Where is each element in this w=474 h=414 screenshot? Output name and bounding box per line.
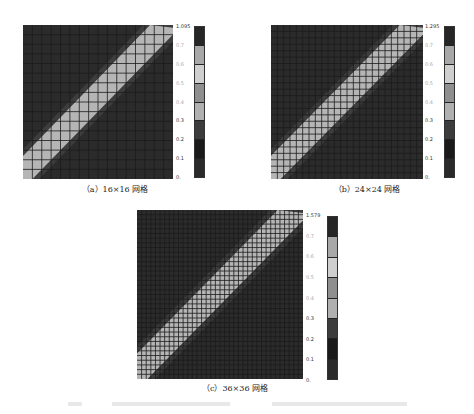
contour-band-b <box>271 25 423 179</box>
colorbar-segment <box>445 159 454 177</box>
colorbar-segment <box>445 140 454 159</box>
colorbar-tick-label: 1.295 <box>425 24 442 29</box>
colorbar-a <box>194 26 205 178</box>
colorbar-segment <box>195 84 204 103</box>
colorbar-segment <box>328 339 337 359</box>
colorbar-tick-label: 0.3 <box>306 316 324 321</box>
colorbar-tick-label: 0.2 <box>176 137 192 142</box>
colorbar-tick-label: 0.5 <box>425 81 442 86</box>
colorbar-segment <box>328 258 337 278</box>
colorbar-segment <box>195 65 204 84</box>
colorbar-ticks-b: 1.2950.70.60.50.40.30.20.10. <box>425 24 442 180</box>
colorbar-tick-label: 0.6 <box>425 62 442 67</box>
colorbar-tick-label: 0. <box>176 175 192 180</box>
colorbar-segment <box>328 278 337 298</box>
colorbar-tick-label: 0.7 <box>306 234 324 239</box>
colorbar-tick-label: 0.2 <box>425 137 442 142</box>
colorbar-segment <box>328 237 337 257</box>
figure-caption <box>60 402 420 408</box>
colorbar-c <box>327 216 338 380</box>
colorbar-segment <box>328 217 337 237</box>
colorbar-tick-label: 0.7 <box>425 43 442 48</box>
colorbar-segment <box>195 27 204 46</box>
colorbar-tick-label: 0.1 <box>176 156 192 161</box>
contour-plot-b <box>271 25 423 179</box>
colorbar-ticks-a: 1.0950.70.60.50.40.30.20.10. <box>176 24 192 180</box>
colorbar-tick-label: 0.7 <box>176 43 192 48</box>
colorbar-segment <box>445 65 454 84</box>
colorbar-segment <box>445 103 454 122</box>
colorbar-tick-label: 0. <box>425 175 442 180</box>
contour-plot-c <box>137 210 303 379</box>
caption-c: （c）36×36 网格 <box>180 382 290 393</box>
colorbar-segment <box>328 319 337 339</box>
colorbar-tick-label: 0.4 <box>176 100 192 105</box>
colorbar-segment <box>195 159 204 177</box>
colorbar-tick-label: 0.6 <box>176 62 192 67</box>
caption-b: （b）24×24 网格 <box>312 183 422 194</box>
colorbar-tick-label: 1.579 <box>306 213 324 218</box>
contour-band-a <box>23 25 173 179</box>
colorbar-segment <box>328 299 337 319</box>
colorbar-ticks-c: 1.5790.70.60.50.40.30.20.10. <box>306 213 324 383</box>
colorbar-segment <box>445 121 454 140</box>
colorbar-segment <box>445 84 454 103</box>
colorbar-segment <box>195 103 204 122</box>
colorbar-segment <box>195 46 204 65</box>
contour-band-c <box>137 210 303 379</box>
colorbar-b <box>444 26 455 178</box>
colorbar-tick-label: 0.1 <box>306 357 324 362</box>
caption-a: （a）16×16 网格 <box>60 183 170 194</box>
colorbar-tick-label: 0.1 <box>425 156 442 161</box>
colorbar-segment <box>195 121 204 140</box>
colorbar-tick-label: 0.3 <box>176 118 192 123</box>
colorbar-tick-label: 0. <box>306 378 324 383</box>
colorbar-tick-label: 0.2 <box>306 337 324 342</box>
colorbar-segment <box>445 27 454 46</box>
colorbar-tick-label: 0.3 <box>425 118 442 123</box>
colorbar-tick-label: 1.095 <box>176 24 192 29</box>
colorbar-tick-label: 0.6 <box>306 254 324 259</box>
colorbar-tick-label: 0.5 <box>306 275 324 280</box>
contour-plot-a <box>23 25 173 179</box>
colorbar-segment <box>328 360 337 379</box>
colorbar-tick-label: 0.4 <box>306 296 324 301</box>
colorbar-segment <box>195 140 204 159</box>
colorbar-tick-label: 0.4 <box>425 100 442 105</box>
colorbar-segment <box>445 46 454 65</box>
colorbar-tick-label: 0.5 <box>176 81 192 86</box>
